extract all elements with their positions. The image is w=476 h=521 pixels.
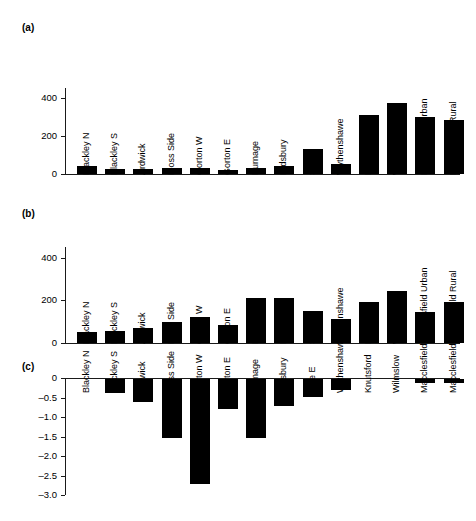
category-label: Blackley N bbox=[82, 301, 91, 344]
y-tick-label-b-2: 400 bbox=[13, 253, 57, 262]
y-axis-line-c bbox=[65, 378, 66, 495]
category-label: Knutsford bbox=[364, 354, 373, 393]
category-label: Ardwick bbox=[138, 312, 147, 344]
y-tick-b-1 bbox=[61, 300, 65, 301]
category-label: Burnage bbox=[251, 141, 260, 175]
y-tick-c-6 bbox=[61, 495, 65, 496]
category-label: Blackley N bbox=[82, 132, 91, 175]
panel-label-b: (b) bbox=[22, 208, 35, 219]
category-label: Wythenshawe bbox=[336, 119, 345, 175]
category-label: Moss Side bbox=[167, 302, 176, 344]
category-label: Burnage bbox=[251, 359, 260, 393]
category-label: Didsbury bbox=[279, 139, 288, 175]
y-tick-label-c-0: 0 bbox=[13, 373, 57, 382]
panel-label-c: (c) bbox=[22, 361, 34, 372]
panel-label-a: (a) bbox=[22, 22, 34, 33]
y-tick-b-2 bbox=[61, 258, 65, 259]
category-label: Macclesfield Rural bbox=[449, 101, 458, 175]
y-tick-c-2 bbox=[61, 417, 65, 418]
category-label: Gorton E bbox=[223, 308, 232, 344]
category-label: Sale E bbox=[308, 366, 317, 393]
y-axis-line-a bbox=[65, 88, 66, 174]
category-label: Moss Side bbox=[167, 351, 176, 393]
y-tick-label-a-2: 400 bbox=[13, 93, 57, 102]
y-tick-b-0 bbox=[61, 343, 65, 344]
chart-panel-b: (b) 0200400Blackley NBlackley SArdwickMo… bbox=[0, 200, 476, 360]
category-label: Wythenshawe bbox=[336, 337, 345, 393]
y-tick-c-1 bbox=[61, 398, 65, 399]
y-tick-a-1 bbox=[61, 136, 65, 137]
category-label: Macclesfield Urban bbox=[420, 316, 429, 393]
category-label: Wilmslow bbox=[392, 355, 401, 393]
category-label: Sale E bbox=[308, 148, 317, 175]
y-tick-label-a-0: 0 bbox=[13, 169, 57, 178]
y-tick-label-c-4: –2.0 bbox=[13, 451, 57, 460]
category-label: Gorton W bbox=[195, 354, 204, 393]
category-label: Blackley S bbox=[110, 302, 119, 344]
y-tick-label-a-1: 200 bbox=[13, 131, 57, 140]
y-tick-c-4 bbox=[61, 456, 65, 457]
y-tick-c-3 bbox=[61, 437, 65, 438]
chart-panel-c: (c) 0–0.5–1.0–1.5–2.0–2.5–3.0Blackley NB… bbox=[0, 360, 476, 521]
y-axis-line-b bbox=[65, 247, 66, 343]
category-label: Ardwick bbox=[138, 361, 147, 393]
category-label: Macclesfield Rural bbox=[449, 319, 458, 393]
category-label: Ardwick bbox=[138, 143, 147, 175]
category-label: Blackley S bbox=[110, 351, 119, 393]
category-label: Burnage bbox=[251, 310, 260, 344]
category-label: Didsbury bbox=[279, 308, 288, 344]
chart-panel-a: (a) 0200400Blackley NBlackley SArdwickMo… bbox=[0, 0, 476, 200]
bar bbox=[190, 379, 210, 484]
category-label: Wythenshawe bbox=[336, 288, 345, 344]
y-tick-a-2 bbox=[61, 98, 65, 99]
y-tick-label-b-1: 200 bbox=[13, 295, 57, 304]
category-label: Gorton W bbox=[195, 305, 204, 344]
y-tick-c-0 bbox=[61, 378, 65, 379]
y-tick-label-c-1: –0.5 bbox=[13, 393, 57, 402]
category-label: Didsbury bbox=[279, 357, 288, 393]
y-tick-label-c-3: –1.5 bbox=[13, 432, 57, 441]
category-label: Blackley N bbox=[82, 350, 91, 393]
category-label: Knutsford bbox=[364, 136, 373, 175]
category-label: Knutsford bbox=[364, 305, 373, 344]
y-tick-label-c-5: –2.5 bbox=[13, 471, 57, 480]
category-label: Moss Side bbox=[167, 133, 176, 175]
y-tick-label-b-0: 0 bbox=[13, 338, 57, 347]
category-label: Gorton W bbox=[195, 136, 204, 175]
category-label: Blackley S bbox=[110, 133, 119, 175]
category-label: Sale E bbox=[308, 317, 317, 344]
y-tick-label-c-6: –3.0 bbox=[13, 490, 57, 499]
y-tick-c-5 bbox=[61, 476, 65, 477]
y-tick-a-0 bbox=[61, 174, 65, 175]
category-label: Wilmslow bbox=[392, 137, 401, 175]
category-label: Gorton E bbox=[223, 139, 232, 175]
category-label: Gorton E bbox=[223, 357, 232, 393]
category-label: Wilmslow bbox=[392, 306, 401, 344]
y-tick-label-c-2: –1.0 bbox=[13, 412, 57, 421]
figure-container: (a) 0200400Blackley NBlackley SArdwickMo… bbox=[0, 0, 476, 521]
category-label: Macclesfield Urban bbox=[420, 98, 429, 175]
